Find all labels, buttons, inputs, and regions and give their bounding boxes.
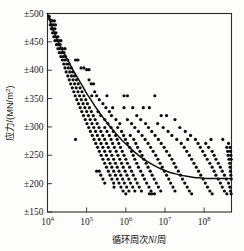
x-axis-title: 循环周次N/周 [112,234,166,245]
data-point [133,189,136,192]
data-point [163,146,166,149]
data-point [90,94,93,97]
data-point [129,134,132,137]
data-point [94,130,97,133]
data-point [69,82,72,85]
data-point [206,185,209,188]
data-point [123,181,126,184]
data-point [133,126,136,129]
data-point [71,86,74,89]
data-point [87,68,90,71]
data-point [105,142,108,145]
data-point [100,154,103,157]
data-point [82,66,85,69]
data-point [229,174,232,177]
data-point [148,106,151,109]
data-point [86,102,89,105]
data-point [228,162,231,165]
data-point [139,170,142,173]
data-point [230,192,233,195]
y-tick-label: ±300 [24,122,44,132]
data-point [126,162,129,165]
data-point [227,142,230,145]
data-point [188,189,191,192]
data-point [192,162,195,165]
data-point [211,150,214,153]
data-point [112,185,115,188]
data-point [153,178,156,181]
data-point [125,174,128,177]
data-point [120,162,123,165]
data-point [94,142,97,145]
data-point [143,138,146,141]
data-point [89,118,92,121]
data-point [116,154,119,157]
data-point [129,181,132,184]
data-point [122,106,125,109]
data-point [122,134,125,137]
data-point [112,181,115,184]
data-point [119,146,122,149]
data-point [124,138,127,141]
data-point [105,130,108,133]
data-point [166,130,169,133]
data-point [189,134,192,137]
data-point [211,192,214,195]
data-point [130,122,133,125]
data-point [219,166,222,169]
data-point [62,62,65,65]
data-point [184,130,187,133]
data-point [119,185,122,188]
data-point [132,174,135,177]
data-point [140,189,143,192]
data-point [105,154,108,157]
data-point [153,94,156,97]
data-point [217,162,220,165]
data-point [88,106,91,109]
data-point [170,134,173,137]
data-point [165,174,168,177]
data-point [73,82,76,85]
data-point [138,185,141,188]
data-point [228,185,231,188]
data-point [219,181,222,184]
data-point [157,138,160,141]
data-point [225,146,228,149]
data-point [208,189,211,192]
data-point [103,181,106,184]
data-point [89,130,92,133]
data-point [111,142,114,145]
data-point [79,86,82,89]
data-point [142,106,145,109]
y-tick-label: ±250 [24,150,44,160]
data-point [190,158,193,161]
data-point [96,122,99,125]
data-point [99,142,102,145]
data-point [197,170,200,173]
data-point [63,58,66,61]
data-point [110,154,113,157]
data-point [85,110,88,113]
data-point [134,142,137,145]
data-point [127,178,130,181]
data-point [112,170,115,173]
data-point [168,154,171,157]
data-point [80,90,83,93]
data-point [122,94,125,97]
data-point [74,138,77,141]
data-point [92,82,95,85]
data-point [207,146,210,149]
figure-container: ±150±200±250±300±350±400±450±500 1041051… [0,0,244,251]
data-point [150,130,153,133]
data-point [108,174,111,177]
data-point [150,192,153,195]
data-point [114,118,117,121]
data-point [213,170,216,173]
data-point [186,138,189,141]
data-point [156,122,159,125]
data-point [104,106,107,109]
x-axis-tickmarks [48,208,205,213]
data-point [114,174,117,177]
data-point [226,150,229,153]
data-point [103,150,106,153]
